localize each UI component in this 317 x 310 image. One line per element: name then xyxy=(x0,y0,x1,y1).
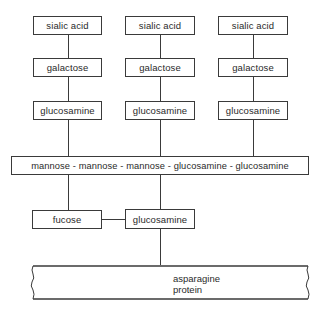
protein-label-line: protein xyxy=(173,284,220,295)
connector xyxy=(160,229,161,265)
connector xyxy=(102,219,125,220)
asparagine-label: asparagine xyxy=(173,273,220,284)
protein-anchor: asparagine protein xyxy=(30,265,311,300)
linker-glucosamine-box: glucosamine xyxy=(125,209,195,229)
glucosamine-box-2: glucosamine xyxy=(125,101,195,120)
label: glucosamine xyxy=(133,105,187,116)
galactose-box-1: galactose xyxy=(33,58,102,77)
label: sialic acid xyxy=(139,20,181,31)
connector xyxy=(253,35,254,58)
label: fucose xyxy=(53,214,82,225)
label: sialic acid xyxy=(46,20,88,31)
glucosamine-box-1: glucosamine xyxy=(33,101,102,120)
connector xyxy=(68,120,69,156)
sialic-acid-box-1: sialic acid xyxy=(33,16,102,35)
connector xyxy=(253,77,254,101)
label: glucosamine xyxy=(40,105,94,116)
connector xyxy=(160,35,161,58)
label: glucosamine xyxy=(133,214,187,225)
sialic-acid-box-3: sialic acid xyxy=(218,16,288,35)
connector xyxy=(253,120,254,156)
label: glucosamine xyxy=(226,105,280,116)
fucose-box: fucose xyxy=(32,210,102,229)
core-chain-box: mannose - mannose - mannose - glucosamin… xyxy=(11,156,309,175)
connector xyxy=(68,175,69,210)
protein-outline-icon xyxy=(30,265,311,300)
label: galactose xyxy=(139,62,181,73)
label: sialic acid xyxy=(232,20,274,31)
glucosamine-box-3: glucosamine xyxy=(218,101,288,120)
galactose-box-3: galactose xyxy=(218,58,288,77)
galactose-box-2: galactose xyxy=(125,58,195,77)
connector xyxy=(160,120,161,156)
connector xyxy=(160,175,161,209)
label: galactose xyxy=(232,62,274,73)
connector xyxy=(160,77,161,101)
label: galactose xyxy=(47,62,89,73)
sialic-acid-box-2: sialic acid xyxy=(125,16,195,35)
connector xyxy=(68,35,69,58)
label: mannose - mannose - mannose - glucosamin… xyxy=(31,161,289,171)
connector xyxy=(68,77,69,101)
protein-label: asparagine protein xyxy=(173,273,220,295)
